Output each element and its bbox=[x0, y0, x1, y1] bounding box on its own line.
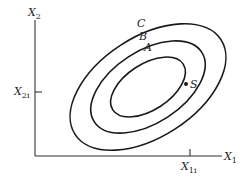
contour-a bbox=[100, 45, 196, 129]
x-tick-label: X1i bbox=[180, 160, 197, 175]
indifference-curve-diagram: X2 X1 X2i X1i A B C S bbox=[0, 0, 249, 179]
contour-c bbox=[48, 0, 248, 176]
point-s-marker bbox=[184, 82, 188, 86]
point-s-label: S bbox=[190, 78, 198, 91]
x-axis-label: X1 bbox=[223, 150, 237, 165]
contour-b-label: B bbox=[138, 30, 147, 43]
contour-c-label: C bbox=[137, 17, 146, 30]
y-axis-label: X2 bbox=[27, 6, 41, 21]
y-tick-label: X2i bbox=[13, 85, 30, 100]
